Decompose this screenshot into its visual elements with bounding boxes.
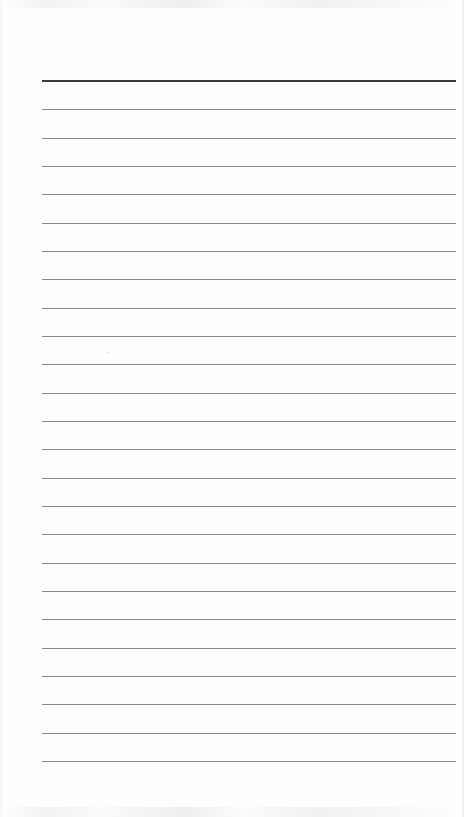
- top-ruled-line: [42, 80, 456, 82]
- ruled-line: [42, 761, 456, 762]
- ruled-line: [42, 478, 456, 479]
- lined-paper-page: [0, 0, 464, 817]
- ruled-line: [42, 336, 456, 337]
- ruled-line: [42, 223, 456, 224]
- paper-speck: [108, 352, 109, 353]
- ruled-line: [42, 534, 456, 535]
- ruled-line: [42, 506, 456, 507]
- bottom-edge-bleed-through: [0, 807, 464, 817]
- ruled-line: [42, 421, 456, 422]
- ruled-line: [42, 308, 456, 309]
- ruled-line: [42, 704, 456, 705]
- ruled-line: [42, 194, 456, 195]
- ruled-line: [42, 251, 456, 252]
- ruled-line: [42, 109, 456, 110]
- left-page-edge: [0, 0, 3, 817]
- top-edge-bleed-through: [0, 0, 464, 8]
- ruled-line: [42, 648, 456, 649]
- ruled-line: [42, 619, 456, 620]
- ruled-line: [42, 393, 456, 394]
- ruled-line: [42, 166, 456, 167]
- ruled-line: [42, 279, 456, 280]
- ruled-line: [42, 364, 456, 365]
- ruled-line: [42, 676, 456, 677]
- ruled-line: [42, 563, 456, 564]
- ruled-line: [42, 591, 456, 592]
- ruled-line: [42, 449, 456, 450]
- ruled-line: [42, 733, 456, 734]
- ruled-line: [42, 138, 456, 139]
